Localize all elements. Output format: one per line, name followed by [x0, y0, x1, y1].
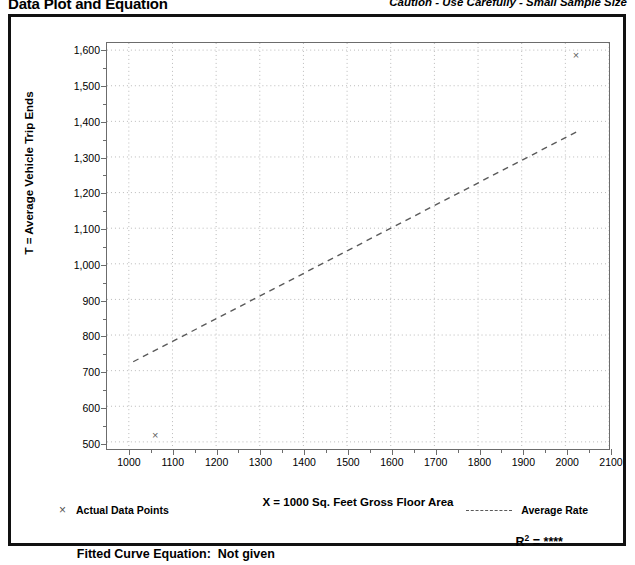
cross-marker-icon: ×: [59, 504, 66, 516]
y-tick-mark: [101, 229, 107, 230]
x-tick-mark-minor: [238, 449, 239, 453]
x-tick-mark: [217, 449, 218, 455]
y-tick-label: 1,300: [74, 152, 100, 164]
x-tick-mark: [480, 449, 481, 455]
y-tick-mark-minor: [103, 175, 107, 176]
y-tick-label: 1,400: [74, 116, 100, 128]
x-tick-label: 1400: [293, 456, 316, 468]
y-tick-label: 600: [82, 402, 100, 414]
x-tick-label: 1100: [161, 456, 184, 468]
average-rate-line: [133, 132, 576, 362]
r-squared-label: R: [515, 535, 524, 549]
legend-item-average-rate: Average Rate: [466, 504, 588, 516]
x-tick-label: 2100: [599, 456, 622, 468]
y-tick-mark: [101, 86, 107, 87]
x-tick-mark: [304, 449, 305, 455]
x-tick-mark-minor: [501, 449, 502, 453]
page-header: Data Plot and Equation Caution - Use Car…: [0, 0, 635, 13]
data-plot: T = Average Vehicle Trip Ends 5006007008…: [11, 17, 623, 499]
y-axis-title: T = Average Vehicle Trip Ends: [23, 83, 35, 263]
y-tick-mark-minor: [103, 211, 107, 212]
x-tick-mark-minor: [414, 449, 415, 453]
y-tick-mark: [101, 301, 107, 302]
x-tick-mark: [567, 449, 568, 455]
x-tick-mark: [611, 449, 612, 455]
x-tick-mark-minor: [282, 449, 283, 453]
x-tick-mark: [436, 449, 437, 455]
x-tick-label: 1700: [424, 456, 447, 468]
series-layer: [107, 43, 609, 449]
y-tick-label: 1,600: [74, 44, 100, 56]
x-tick-label: 1900: [512, 456, 535, 468]
x-tick-mark-minor: [370, 449, 371, 453]
x-tick-mark: [129, 449, 130, 455]
x-tick-mark-minor: [545, 449, 546, 453]
plot-area: 5006007008009001,0001,1001,2001,3001,400…: [106, 42, 610, 450]
y-tick-label: 800: [82, 330, 100, 342]
y-tick-mark: [101, 265, 107, 266]
chart-panel: T = Average Vehicle Trip Ends 5006007008…: [8, 14, 626, 546]
x-tick-label: 1200: [205, 456, 228, 468]
y-tick-mark: [101, 372, 107, 373]
equation-footer: Fitted Curve Equation: Not given R2 = **…: [11, 533, 623, 559]
x-tick-mark: [348, 449, 349, 455]
y-tick-mark: [101, 158, 107, 159]
y-tick-mark: [101, 444, 107, 445]
y-tick-label: 1,200: [74, 187, 100, 199]
y-tick-mark-minor: [103, 68, 107, 69]
y-tick-mark-minor: [103, 426, 107, 427]
x-tick-label: 2000: [555, 456, 578, 468]
y-tick-mark: [101, 193, 107, 194]
r-squared-stars: ****: [544, 535, 563, 549]
y-tick-mark-minor: [103, 354, 107, 355]
fitted-curve-equation-label: Fitted Curve Equation:: [77, 547, 211, 561]
x-tick-mark-minor: [195, 449, 196, 453]
y-tick-mark-minor: [103, 247, 107, 248]
y-tick-label: 700: [82, 366, 100, 378]
x-tick-mark: [173, 449, 174, 455]
x-tick-mark-minor: [326, 449, 327, 453]
y-tick-mark: [101, 408, 107, 409]
y-tick-label: 500: [82, 438, 100, 450]
x-tick-mark-minor: [589, 449, 590, 453]
x-tick-mark: [392, 449, 393, 455]
data-point-marker: ×: [150, 430, 161, 441]
r-squared-exponent: 2: [525, 533, 530, 543]
x-tick-label: 1600: [380, 456, 403, 468]
x-tick-label: 1800: [468, 456, 491, 468]
page-title: Data Plot and Equation: [8, 0, 168, 12]
y-tick-mark-minor: [103, 283, 107, 284]
r-squared-equals: =: [533, 535, 540, 549]
r-squared-value: R2 = ****: [515, 533, 563, 549]
x-tick-label: 1000: [117, 456, 140, 468]
y-tick-mark: [101, 336, 107, 337]
y-tick-mark-minor: [103, 319, 107, 320]
x-tick-label: 1300: [249, 456, 272, 468]
dashed-line-icon: [466, 510, 512, 511]
caution-note: Caution - Use Carefully - Small Sample S…: [389, 0, 627, 8]
y-tick-mark: [101, 122, 107, 123]
legend-label-average-rate: Average Rate: [521, 504, 588, 516]
x-tick-mark: [523, 449, 524, 455]
x-tick-mark-minor: [458, 449, 459, 453]
y-tick-mark: [101, 50, 107, 51]
legend-item-actual-data-points: × Actual Data Points: [59, 504, 169, 516]
data-point-marker: ×: [570, 50, 581, 61]
fitted-curve-equation: Fitted Curve Equation: Not given: [56, 533, 275, 565]
x-tick-mark: [260, 449, 261, 455]
y-tick-mark-minor: [103, 104, 107, 105]
y-tick-label: 900: [82, 295, 100, 307]
legend-label-actual-data-points: Actual Data Points: [76, 504, 169, 516]
y-tick-label: 1,100: [74, 223, 100, 235]
y-tick-mark-minor: [103, 140, 107, 141]
x-tick-mark-minor: [151, 449, 152, 453]
y-tick-mark-minor: [103, 390, 107, 391]
fitted-curve-equation-value: Not given: [218, 547, 275, 561]
x-tick-label: 1500: [336, 456, 359, 468]
y-tick-label: 1,500: [74, 80, 100, 92]
y-tick-label: 1,000: [74, 259, 100, 271]
chart-legend: × Actual Data Points Average Rate: [11, 504, 623, 530]
